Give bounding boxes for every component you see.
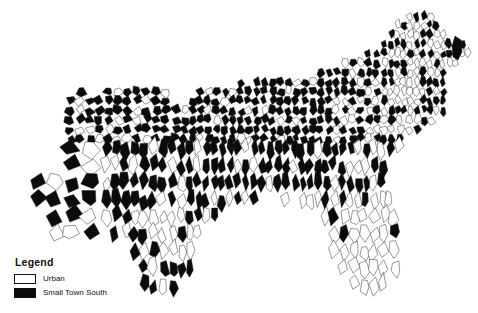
map-legend: Legend Urban Small Town South (14, 256, 146, 301)
county-polygon (377, 242, 389, 258)
county-polygon (131, 141, 141, 155)
county-polygon (307, 173, 313, 190)
county-polygon (187, 188, 194, 205)
county-polygon (339, 125, 347, 134)
county-polygon (381, 40, 387, 48)
county-polygon (414, 113, 422, 124)
county-polygon (328, 155, 336, 170)
county-polygon (161, 98, 170, 105)
county-polygon (277, 97, 284, 107)
county-polygon (288, 160, 297, 174)
county-polygon (202, 175, 209, 191)
county-polygon (147, 191, 157, 210)
county-polygon (203, 104, 211, 114)
county-polygon (427, 104, 433, 115)
county-polygon (297, 144, 305, 161)
county-polygon (381, 95, 388, 105)
county-polygon (188, 105, 197, 114)
county-polygon (234, 191, 242, 205)
county-polygon (381, 68, 387, 77)
county-polygon (112, 204, 122, 222)
urban-swatch (14, 274, 36, 284)
county-polygon (363, 144, 370, 159)
county-polygon (395, 48, 401, 58)
county-polygon (82, 191, 96, 206)
county-polygon (382, 58, 388, 68)
county-polygon (229, 116, 236, 126)
county-polygon (389, 241, 399, 259)
county-polygon (369, 175, 376, 191)
map-figure-page: Legend Urban Small Town South (0, 0, 478, 313)
county-polygon (341, 77, 348, 86)
county-polygon (177, 141, 186, 160)
county-polygon (226, 189, 233, 207)
county-polygon (389, 49, 395, 58)
county-polygon (357, 132, 366, 142)
county-layer (31, 10, 471, 297)
county-polygon (179, 245, 186, 261)
county-polygon (277, 89, 285, 97)
county-polygon (361, 156, 370, 176)
county-polygon (76, 113, 86, 124)
county-polygon (105, 115, 113, 125)
county-polygon (159, 125, 169, 133)
county-polygon (380, 48, 387, 56)
county-polygon (371, 78, 381, 86)
county-polygon (217, 156, 225, 173)
county-polygon (414, 66, 420, 76)
county-polygon (84, 223, 100, 240)
county-polygon (102, 88, 112, 95)
county-polygon (92, 95, 103, 105)
county-polygon (326, 86, 333, 95)
county-polygon (273, 174, 282, 193)
county-polygon (340, 225, 349, 243)
county-polygon (205, 127, 212, 135)
county-polygon (355, 191, 362, 208)
county-polygon (291, 117, 299, 126)
county-polygon (74, 97, 85, 107)
county-polygon (196, 87, 205, 96)
county-polygon (161, 105, 171, 114)
county-polygon (425, 28, 433, 39)
county-polygon (167, 211, 176, 228)
county-polygon (63, 225, 80, 239)
county-polygon (348, 257, 360, 273)
county-polygon (395, 96, 401, 104)
county-polygon (334, 87, 340, 98)
county-polygon (123, 88, 131, 97)
county-polygon (261, 124, 269, 132)
county-polygon (441, 51, 447, 58)
county-polygon (464, 48, 471, 58)
county-polygon (187, 259, 194, 277)
county-polygon (395, 19, 401, 29)
county-polygon (427, 117, 436, 125)
county-polygon (395, 37, 401, 47)
county-polygon (112, 105, 122, 115)
county-polygon (159, 242, 169, 259)
county-polygon (150, 95, 161, 105)
county-polygon (414, 76, 420, 87)
county-polygon (381, 78, 387, 88)
county-polygon (381, 107, 388, 118)
county-polygon (432, 21, 439, 31)
county-polygon (368, 243, 378, 262)
county-polygon (252, 106, 258, 117)
county-polygon (110, 226, 118, 243)
county-polygon (405, 115, 412, 123)
county-polygon (150, 241, 161, 257)
county-polygon (314, 172, 322, 190)
county-polygon (360, 280, 369, 296)
county-polygon (428, 49, 435, 59)
county-polygon (258, 139, 265, 155)
county-polygon (407, 57, 413, 65)
county-polygon (321, 206, 330, 226)
county-polygon (249, 157, 257, 173)
county-polygon (133, 86, 140, 96)
county-polygon (328, 207, 339, 226)
county-polygon (434, 59, 441, 68)
county-polygon (260, 94, 266, 104)
legend-item-small-town-south: Small Town South (14, 287, 146, 298)
county-polygon (315, 191, 322, 208)
county-polygon (95, 106, 106, 116)
county-polygon (75, 127, 85, 135)
